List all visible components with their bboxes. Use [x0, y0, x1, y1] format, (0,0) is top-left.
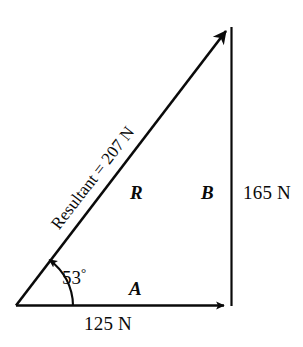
vector-r-line: [16, 31, 226, 306]
vector-b-magnitude-label: 165 N: [243, 183, 291, 202]
vector-a-magnitude-label: 125 N: [84, 314, 132, 333]
degree-symbol-icon: °: [81, 265, 86, 280]
vector-a-label: A: [129, 279, 142, 298]
vector-triangle-svg: [0, 0, 303, 347]
vector-diagram-figure: R B A 125 N 165 N Resultant = 207 N 53°: [0, 0, 303, 347]
vector-b-label: B: [201, 183, 214, 202]
vector-r-label: R: [130, 183, 143, 202]
angle-value: 53: [62, 267, 81, 288]
angle-label: 53°: [62, 268, 86, 287]
